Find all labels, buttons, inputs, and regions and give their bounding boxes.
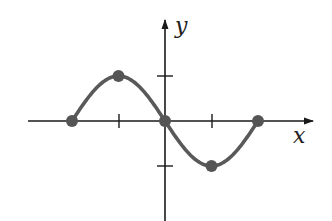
data-point bbox=[206, 160, 218, 172]
data-point bbox=[113, 70, 125, 82]
y-axis-label: y bbox=[174, 13, 188, 38]
x-axis-label: x bbox=[293, 123, 306, 148]
data-point bbox=[252, 115, 264, 127]
data-point bbox=[66, 115, 78, 127]
data-point bbox=[159, 115, 171, 127]
graph: y x bbox=[0, 0, 332, 221]
